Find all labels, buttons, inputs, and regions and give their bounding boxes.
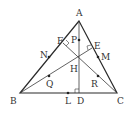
label-l: L	[65, 96, 71, 106]
label-h: H	[70, 64, 78, 74]
right-angle-f-icon	[66, 40, 69, 46]
altitude-be	[20, 48, 92, 93]
label-d: D	[77, 96, 84, 106]
point-l	[67, 92, 70, 95]
label-e: E	[94, 41, 101, 51]
label-f: F	[57, 36, 63, 46]
point-q	[48, 75, 51, 78]
triangle-diagram: A B C D E F H L M N P Q R	[0, 0, 132, 114]
label-q: Q	[46, 79, 53, 89]
point-n	[48, 56, 51, 59]
label-a: A	[75, 8, 83, 18]
point-p	[78, 39, 81, 42]
point-m	[97, 56, 100, 59]
label-p: P	[71, 35, 77, 45]
label-n: N	[40, 50, 48, 60]
label-c: C	[117, 96, 124, 106]
label-b: B	[10, 96, 17, 106]
point-r	[97, 75, 100, 78]
label-m: M	[101, 52, 110, 62]
label-r: R	[91, 79, 98, 89]
